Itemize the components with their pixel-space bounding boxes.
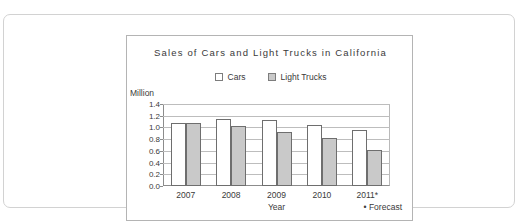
legend-item-cars: Cars [215,72,246,82]
bar-light-trucks-2010 [322,138,337,186]
bar-cars-2010 [307,125,322,186]
bar-cars-2009 [262,120,277,186]
bar-cars-2008 [216,119,231,186]
gridline [163,104,390,105]
chart-legend: Cars Light Trucks [127,72,414,82]
bar-light-trucks-2011 [367,150,382,186]
legend-label-cars: Cars [228,72,246,82]
x-axis-tick-label: 2011* [345,190,390,200]
x-axis-tick-label: 2007 [163,190,208,200]
gridline [163,116,390,117]
chart-title: Sales of Cars and Light Trucks in Califo… [127,47,414,58]
x-axis-tick-label: 2009 [254,190,299,200]
bar-light-trucks-2008 [231,126,246,186]
y-axis-tick-mark [160,186,163,187]
bar-cars-2007 [171,123,186,186]
legend-swatch-light-trucks-icon [268,73,276,81]
legend-swatch-cars-icon [215,73,223,81]
y-axis-unit-label: Million [130,88,154,98]
bar-light-trucks-2009 [277,132,292,186]
y-axis-tick-marks [127,104,163,186]
bar-light-trucks-2007 [186,123,201,186]
outer-card: Sales of Cars and Light Trucks in Califo… [3,14,515,208]
bar-cars-2011 [352,130,367,186]
legend-label-light-trucks: Light Trucks [281,72,327,82]
chart-frame: Sales of Cars and Light Trucks in Califo… [126,35,413,221]
forecast-footnote: • Forecast [364,202,402,212]
x-axis-tick-label: 2008 [208,190,253,200]
x-axis-tick-label: 2010 [299,190,344,200]
legend-item-light-trucks: Light Trucks [268,72,327,82]
x-axis-title: Year [163,202,390,212]
plot-area [163,104,390,186]
